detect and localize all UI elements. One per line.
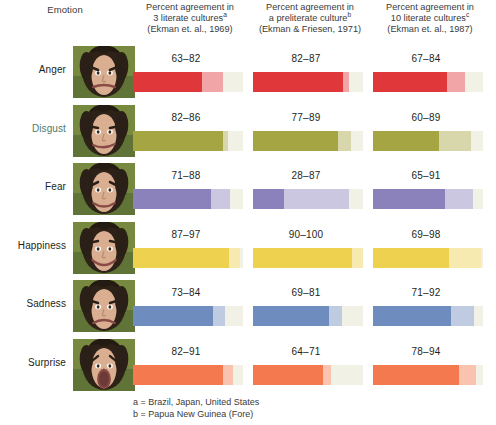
data-cell: 78–94 [371, 339, 489, 391]
value-label: 78–94 [371, 346, 481, 357]
range-bar-lower-segment [253, 72, 343, 92]
header-column-3-line2: 10 literate cultures [391, 13, 466, 23]
header-column-3-footnote-marker: c [466, 11, 469, 18]
range-bar-remainder [471, 131, 483, 151]
range-bar-upper-segment [211, 189, 230, 209]
range-bar-lower-segment [253, 365, 323, 385]
value-label: 71–92 [371, 287, 481, 298]
header-column-1-line2: 3 literate cultures [153, 13, 223, 23]
data-cell: 77–89 [251, 105, 369, 157]
value-label: 71–88 [131, 170, 241, 181]
range-bar [373, 365, 483, 385]
value-label: 63–82 [131, 53, 241, 64]
row-label-sadness: Sadness [0, 298, 66, 309]
emotion-face-photo [73, 163, 135, 215]
range-bar-remainder [342, 306, 363, 326]
range-bar-remainder [331, 365, 363, 385]
value-label: 90–100 [251, 229, 361, 240]
row-label-disgust: Disgust [0, 123, 66, 134]
data-cell: 90–100 [251, 222, 369, 274]
value-label: 73–84 [131, 287, 241, 298]
table-row: Sadness73–8469–8171–92 [0, 280, 496, 334]
range-bar-remainder [476, 365, 483, 385]
value-label: 69–81 [251, 287, 361, 298]
value-label: 82–86 [131, 112, 241, 123]
data-cell: 71–92 [371, 280, 489, 332]
header-emotion-label: Emotion [0, 4, 130, 15]
range-bar-lower-segment [373, 189, 445, 209]
range-bar-upper-segment [451, 306, 474, 326]
range-bar-remainder [473, 189, 483, 209]
data-cell: 82–86 [131, 105, 249, 157]
range-bar-remainder [230, 189, 243, 209]
range-bar-upper-segment [445, 189, 474, 209]
range-bar [253, 248, 363, 268]
range-bar [373, 72, 483, 92]
value-label: 77–89 [251, 112, 361, 123]
range-bar-lower-segment [133, 365, 223, 385]
header-column-2-footnote-marker: b [347, 11, 351, 18]
range-bar [133, 131, 243, 151]
range-bar-upper-segment [213, 306, 225, 326]
header-column-3-line1: Percent agreement in [371, 2, 489, 13]
range-bar-lower-segment [253, 248, 352, 268]
footnote-b: b = Papua New Guinea (Fore) [133, 409, 473, 421]
range-bar [133, 189, 243, 209]
range-bar-upper-segment [447, 72, 466, 92]
header-column-2-line1: Percent agreement in [251, 2, 369, 13]
value-label: 28–87 [251, 170, 361, 181]
range-bar-remainder [233, 365, 243, 385]
row-label-anger: Anger [0, 64, 66, 75]
table-header: Emotion Percent agreement in 3 literate … [0, 0, 496, 46]
emotion-face-photo [73, 280, 135, 332]
range-bar-remainder [474, 306, 483, 326]
range-bar-remainder [225, 306, 243, 326]
range-bar [133, 72, 243, 92]
range-bar-lower-segment [373, 72, 447, 92]
range-bar [253, 365, 363, 385]
range-bar [253, 189, 363, 209]
range-bar-upper-segment [329, 306, 342, 326]
range-bar-remainder [228, 131, 243, 151]
range-bar-upper-segment [449, 248, 481, 268]
range-bar [373, 306, 483, 326]
range-bar-remainder [481, 248, 483, 268]
data-cell: 71–88 [131, 163, 249, 215]
range-bar-lower-segment [373, 131, 439, 151]
value-label: 87–97 [131, 229, 241, 240]
data-cell: 69–98 [371, 222, 489, 274]
data-cell: 67–84 [371, 46, 489, 98]
footnotes: a = Brazil, Japan, United States b = Pap… [133, 397, 473, 420]
range-bar-lower-segment [253, 131, 338, 151]
header-column-1-footnote-marker: a [223, 11, 227, 18]
table-row: Disgust82–8677–8960–89 [0, 105, 496, 159]
data-cell: 28–87 [251, 163, 369, 215]
range-bar [253, 72, 363, 92]
data-cell: 64–71 [251, 339, 369, 391]
range-bar-lower-segment [253, 189, 284, 209]
row-label-fear: Fear [0, 181, 66, 192]
range-bar-upper-segment [459, 365, 477, 385]
value-label: 60–89 [371, 112, 481, 123]
data-cell: 69–81 [251, 280, 369, 332]
header-column-3-citation: (Ekman et. al., 1987) [371, 24, 489, 35]
range-bar-remainder [223, 72, 243, 92]
range-bar [253, 306, 363, 326]
header-column-2: Percent agreement in a preliterate cultu… [251, 2, 369, 36]
value-label: 67–84 [371, 53, 481, 64]
range-bar-remainder [351, 131, 363, 151]
range-bar [133, 306, 243, 326]
header-column-3: Percent agreement in 10 literate culture… [371, 2, 489, 36]
range-bar-upper-segment [284, 189, 349, 209]
value-label: 65–91 [371, 170, 481, 181]
range-bar-remainder [349, 72, 363, 92]
emotion-face-photo [73, 46, 135, 98]
header-column-1-line1: Percent agreement in [131, 2, 249, 13]
data-cell: 87–97 [131, 222, 249, 274]
range-bar [373, 131, 483, 151]
value-label: 64–71 [251, 346, 361, 357]
range-bar-upper-segment [323, 365, 331, 385]
range-bar-lower-segment [373, 365, 459, 385]
range-bar-remainder [349, 189, 363, 209]
table-row: Surprise82–9164–7178–94 [0, 339, 496, 393]
